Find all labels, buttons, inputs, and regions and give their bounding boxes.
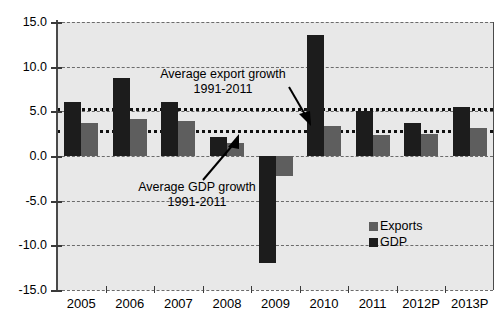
y-axis-label: 5.0 (0, 105, 47, 118)
gridline-15.0 (57, 22, 493, 23)
y-tick-mark (51, 22, 62, 24)
gridline--15.0 (57, 290, 493, 291)
bar-gdp-2006 (113, 78, 130, 156)
legend-label-gdp: GDP (380, 236, 407, 249)
bar-exports-2007 (178, 121, 195, 156)
bar-gdp-2009 (259, 156, 276, 263)
bar-exports-2010 (324, 126, 341, 156)
y-axis-label: -10.0 (0, 239, 47, 252)
x-tick-mark (300, 286, 301, 293)
legend-swatch-exports-icon (369, 222, 378, 231)
bar-gdp-2012P (404, 123, 421, 156)
average-gdp-growth-line1: Average GDP growth (107, 180, 287, 195)
bar-exports-2011 (373, 135, 390, 156)
x-tick-mark (154, 286, 155, 293)
average-gdp-growth-arrow-icon (197, 132, 242, 182)
bar-gdp-2007 (161, 102, 178, 156)
average-gdp-growth-annotation: Average GDP growth 1991-2011 (107, 180, 287, 210)
y-axis-label: 15.0 (0, 16, 47, 29)
y-tick-mark (51, 156, 62, 158)
bar-exports-2009 (276, 156, 293, 176)
y-axis-label: -5.0 (0, 195, 47, 208)
y-tick-mark (51, 67, 62, 69)
x-tick-mark (203, 286, 204, 293)
gdp-exports-growth-chart: Average export growth 1991-2011 Average … (0, 0, 502, 324)
y-axis-label: 0.0 (0, 150, 47, 163)
y-tick-mark (51, 111, 62, 113)
x-tick-mark (106, 286, 107, 293)
y-axis-label: 10.0 (0, 61, 47, 74)
bar-gdp-2011 (356, 111, 373, 156)
y-tick-mark (51, 245, 62, 247)
x-tick-mark (445, 286, 446, 293)
average-export-growth-arrow-icon (285, 84, 325, 129)
x-tick-mark (251, 286, 252, 293)
average-gdp-growth-line2: 1991-2011 (107, 195, 287, 210)
bar-gdp-2005 (64, 102, 81, 156)
x-axis-label-2013P: 2013P (442, 297, 498, 310)
legend-label-exports: Exports (380, 220, 422, 233)
bar-exports-2013P (470, 128, 487, 156)
x-tick-mark (348, 286, 349, 293)
y-axis-label: -15.0 (0, 284, 47, 297)
y-tick-mark (51, 290, 62, 292)
legend-item-exports: Exports (369, 218, 422, 234)
y-tick-mark (51, 201, 62, 203)
legend-swatch-gdp-icon (369, 238, 378, 247)
bar-exports-2005 (81, 123, 98, 156)
bar-gdp-2013P (453, 107, 470, 156)
bar-exports-2012P (421, 134, 438, 156)
average-export-growth-line1: Average export growth (133, 67, 313, 82)
bar-exports-2006 (130, 119, 147, 156)
x-tick-mark (397, 286, 398, 293)
legend: Exports GDP (369, 218, 422, 250)
legend-item-gdp: GDP (369, 234, 422, 250)
plot-area: Average export growth 1991-2011 Average … (57, 22, 494, 290)
